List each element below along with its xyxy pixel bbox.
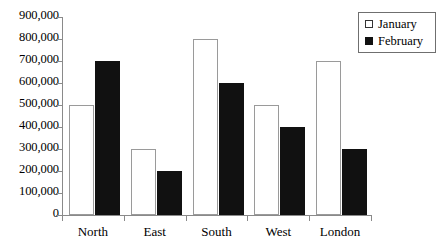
x-axis-category-label: East: [124, 224, 186, 239]
bar-group: [247, 17, 309, 215]
x-axis-tick-mark: [247, 215, 248, 221]
y-axis-tick-label: 200,000: [19, 163, 59, 176]
bar-january: [254, 105, 279, 215]
legend-label-january: January: [378, 17, 417, 31]
open-square-icon: [365, 20, 373, 28]
bar-february: [219, 83, 244, 215]
x-axis-tick-mark: [371, 215, 372, 221]
x-axis-category-label: South: [186, 224, 248, 239]
x-axis-category-label: North: [62, 224, 124, 239]
chart-legend: January February: [358, 12, 436, 53]
bar-chart: 900,000800,000700,000600,000500,000400,0…: [0, 0, 438, 248]
legend-label-february: February: [378, 34, 423, 48]
bar-february: [280, 127, 305, 215]
x-axis-category-label: West: [247, 224, 309, 239]
x-axis-tick-mark: [62, 215, 63, 221]
filled-square-icon: [365, 37, 373, 45]
legend-item-january: January: [365, 17, 417, 31]
bar-january: [131, 149, 156, 215]
x-axis-tick-mark: [309, 215, 310, 221]
y-axis-tick-label: 300,000: [19, 141, 59, 154]
bar-january: [316, 61, 341, 215]
bar-february: [157, 171, 182, 215]
y-axis-tick-label: 0: [53, 207, 59, 220]
plot-area: [62, 17, 371, 215]
bar-january: [69, 105, 94, 215]
y-axis-tick-label: 100,000: [19, 185, 59, 198]
bar-january: [193, 39, 218, 215]
bar-group: [62, 17, 124, 215]
bar-february: [342, 149, 367, 215]
x-axis-tick-mark: [124, 215, 125, 221]
y-axis-tick-label: 600,000: [19, 75, 59, 88]
y-axis-tick-label: 800,000: [19, 31, 59, 44]
bar-february: [95, 61, 120, 215]
legend-item-february: February: [365, 34, 423, 48]
y-axis-tick-label: 700,000: [19, 53, 59, 66]
bar-group: [186, 17, 248, 215]
y-axis-tick-label: 500,000: [19, 97, 59, 110]
bar-group: [124, 17, 186, 215]
y-axis-tick-label: 900,000: [19, 9, 59, 22]
y-axis-tick-label: 400,000: [19, 119, 59, 132]
x-axis-tick-mark: [186, 215, 187, 221]
x-axis-line: [62, 215, 371, 216]
x-axis-category-label: London: [309, 224, 371, 239]
